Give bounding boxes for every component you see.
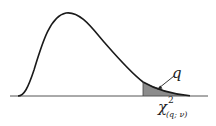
chi-square-subscript: (q; ν): [166, 110, 187, 119]
q-label: q: [172, 64, 182, 82]
shaded-tail-area: [143, 82, 190, 96]
chi-square-superscript: 2: [168, 95, 174, 105]
chi-square-density-diagram: [0, 0, 216, 126]
